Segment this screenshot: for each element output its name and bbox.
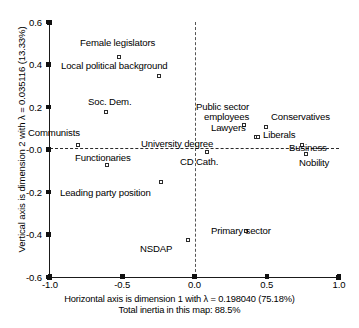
x-axis-title-line2: Total inertia in this map: 88.5% (0, 305, 359, 316)
y-tick-mark (46, 232, 51, 237)
data-point-marker (76, 143, 80, 147)
y-tick-mark (46, 62, 51, 67)
data-point-label: employees (204, 112, 249, 122)
data-point-label: Communists (28, 128, 80, 138)
data-point-label: Primary sector (211, 226, 271, 236)
x-axis-title-line1: Horizontal axis is dimension 1 with λ = … (0, 294, 359, 305)
data-point-label: Female legislators (80, 38, 155, 48)
x-axis-title: Horizontal axis is dimension 1 with λ = … (0, 294, 359, 315)
data-point-marker (256, 135, 260, 139)
x-tick-mark (48, 274, 53, 279)
y-axis-title: Vertical axis is dimension 2 with λ = 0.… (16, 15, 27, 265)
y-tick-mark (46, 190, 51, 195)
correspondence-analysis-scatter-plot: 0.60.40.2-0.0-0.2-0.4-0.6 -1.0-0.50.00.5… (0, 0, 359, 328)
data-point-marker (159, 180, 163, 184)
data-point-label: Conservatives (271, 112, 330, 122)
x-tick-label: 0.0 (172, 280, 218, 289)
vertical-zero-reference-line (195, 22, 196, 277)
y-tick-mark (46, 147, 51, 152)
data-point-label: Liberals (263, 130, 295, 140)
x-tick-mark (120, 274, 125, 279)
data-point-marker (104, 110, 108, 114)
data-point-label: Business (289, 143, 327, 153)
x-tick-label: 1.0 (316, 280, 359, 289)
y-tick-mark (46, 20, 51, 25)
data-point-label: Functionaries (75, 153, 131, 163)
data-point-marker (186, 238, 190, 242)
x-tick-label: -0.5 (99, 280, 145, 289)
data-point-label: NSDAP (140, 244, 172, 254)
x-tick-mark (265, 274, 270, 279)
data-point-label: Nobility (299, 158, 329, 168)
data-point-marker (105, 163, 109, 167)
data-point-label: Soc. Dem. (88, 97, 131, 107)
data-point-label: University degree (141, 139, 213, 149)
x-tick-mark (337, 274, 342, 279)
data-point-marker (117, 55, 121, 59)
x-tick-label: -1.0 (27, 280, 73, 289)
data-point-marker (205, 150, 209, 154)
x-tick-label: 0.5 (244, 280, 290, 289)
data-point-label: CD Cath. (180, 157, 218, 167)
data-point-label: Lawyers (211, 123, 246, 133)
data-point-label: Leading party position (60, 188, 151, 198)
x-tick-mark (192, 274, 197, 279)
data-point-label: Local political background (61, 61, 168, 71)
y-tick-mark (46, 105, 51, 110)
data-point-marker (157, 74, 161, 78)
